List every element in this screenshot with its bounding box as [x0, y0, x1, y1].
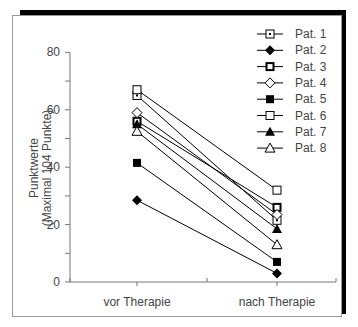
data-point-marker	[273, 186, 281, 194]
legend-item: Pat. 5	[257, 92, 327, 106]
data-point-marker	[273, 258, 281, 266]
legend-label: Pat. 7	[295, 125, 327, 139]
data-point-marker	[272, 240, 282, 249]
legend-marker	[266, 30, 274, 38]
data-point-marker	[272, 268, 282, 278]
legend-label: Pat. 3	[295, 60, 327, 74]
data-series	[132, 86, 282, 279]
data-point-marker	[133, 86, 141, 94]
axes: 020406080	[47, 45, 336, 289]
data-point-marker	[272, 224, 282, 233]
legend-item: Pat. 7	[257, 125, 327, 139]
legend-label: Pat. 1	[295, 27, 327, 41]
legend-marker	[265, 45, 275, 55]
series-line	[137, 200, 277, 273]
data-point-marker	[132, 108, 142, 118]
legend: Pat. 1Pat. 2Pat. 3Pat. 4Pat. 5Pat. 6Pat.…	[257, 27, 327, 155]
data-point-marker	[133, 159, 141, 167]
chart: 020406080 Punktwerte(Maximal 104 Punkte)…	[0, 0, 358, 327]
series-line	[137, 163, 277, 262]
legend-label: Pat. 5	[295, 92, 327, 106]
series-line	[137, 131, 277, 244]
legend-item: Pat. 3	[257, 60, 327, 74]
y-tick-label: 0	[53, 275, 60, 289]
series-line	[137, 95, 277, 220]
legend-item: Pat. 1	[257, 27, 327, 41]
legend-marker	[266, 95, 274, 103]
legend-item: Pat. 6	[257, 109, 327, 123]
y-axis-title-line: Punktwerte	[27, 138, 41, 198]
legend-label: Pat. 8	[295, 141, 327, 155]
x-axis-labels: vor Therapienach Therapie	[103, 295, 315, 309]
legend-item: Pat. 4	[257, 76, 327, 90]
legend-marker	[265, 78, 275, 88]
legend-marker	[267, 63, 274, 70]
x-category-label: vor Therapie	[103, 295, 170, 309]
legend-label: Pat. 6	[295, 109, 327, 123]
legend-item: Pat. 2	[257, 43, 327, 57]
chart-frame	[13, 16, 342, 317]
frame-shadow-top	[20, 10, 346, 15]
x-category-label: nach Therapie	[239, 295, 316, 309]
series-line	[137, 113, 277, 215]
legend-marker	[266, 112, 274, 120]
y-tick-label: 80	[47, 45, 61, 59]
legend-label: Pat. 4	[295, 76, 327, 90]
series-line	[137, 121, 277, 207]
legend-item: Pat. 8	[257, 141, 327, 155]
data-point-marker	[132, 195, 142, 205]
y-axis-label: Punktwerte(Maximal 104 Punkte)	[27, 110, 54, 227]
legend-label: Pat. 2	[295, 43, 327, 57]
y-axis-title-line: (Maximal 104 Punkte)	[40, 110, 54, 227]
